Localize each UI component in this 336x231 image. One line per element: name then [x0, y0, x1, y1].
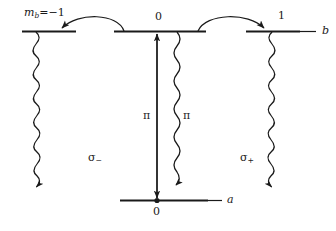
label-m-b-equals-minus-one: mb=−1	[24, 7, 65, 19]
transition-pi-decay-wave	[174, 32, 180, 185]
label-b-level: b	[322, 25, 329, 36]
diagram-canvas	[0, 0, 336, 231]
population-dot-a-zero	[154, 198, 159, 203]
label-sigma-plus-symbol: σ	[240, 151, 248, 164]
label-m-b-symbol: m	[24, 6, 34, 19]
energy-level-diagram: mb=−1 0 1 b a 0 π π σ− σ+	[0, 0, 336, 231]
curved-arrow-coupling-right	[198, 17, 264, 31]
label-sigma-plus: σ+	[240, 152, 254, 164]
label-sigma-minus: σ−	[88, 152, 102, 164]
label-m-b-rest: =−1	[39, 6, 64, 19]
label-zero-bottom: 0	[153, 206, 160, 217]
label-pi-right: π	[183, 110, 190, 121]
label-pi-left: π	[143, 110, 150, 121]
lower-level-lines	[120, 198, 222, 203]
label-sigma-minus-subscript: −	[96, 156, 102, 165]
label-sigma-minus-symbol: σ	[88, 151, 96, 164]
label-one-top: 1	[278, 10, 285, 21]
label-zero-top: 0	[155, 11, 162, 22]
curved-arrow-coupling-left	[62, 17, 124, 31]
transition-sigma-minus-wave	[11, 32, 63, 187]
label-a-level: a	[227, 194, 234, 205]
label-sigma-plus-subscript: +	[248, 156, 254, 165]
